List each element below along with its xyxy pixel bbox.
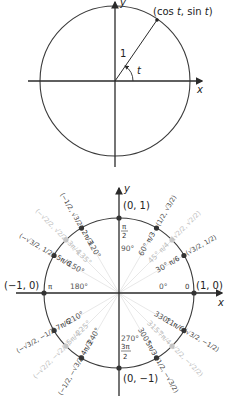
svg-text:5π/4: 5π/4 [65, 330, 82, 347]
svg-text:(−√3/2, −1/2): (−√3/2, −1/2) [15, 326, 58, 356]
svg-text:3π: 3π [121, 343, 130, 351]
svg-text:225°: 225° [74, 318, 93, 337]
svg-text:(1/2, √3/2): (1/2, √3/2) [154, 194, 178, 228]
deg-270: 270° [121, 334, 139, 343]
svg-text:π/3: π/3 [145, 231, 157, 245]
svg-text:30°: 30° [154, 260, 170, 275]
svg-text:(−1/2, −√3/2): (−1/2, −√3/2) [57, 354, 87, 397]
svg-text:210°: 210° [65, 309, 85, 326]
svg-text:315°: 315° [145, 318, 164, 337]
coord-270: (0, −1) [123, 373, 158, 384]
point-180 [41, 290, 46, 295]
svg-text:(−√2/2, √2/2): (−√2/2, √2/2) [34, 207, 71, 244]
rad-270: 3π 2 [121, 343, 131, 361]
svg-text:(1/2, −√3/2): (1/2, −√3/2) [153, 356, 180, 394]
point-label: (cos t, sin t) [153, 6, 213, 17]
svg-text:π/6: π/6 [168, 254, 182, 267]
angle-point-240: 240°4π/3(−1/2, −√3/2) [57, 326, 103, 397]
svg-text:120°: 120° [86, 239, 103, 259]
angle-rays [54, 228, 184, 358]
special-y-axis-label: y [123, 183, 131, 194]
svg-text:60°: 60° [136, 241, 151, 257]
unit-circle-diagram: (cos t, sin t) 1 t x y [0, 0, 234, 170]
rad-180: π [48, 283, 53, 291]
point-0 [191, 290, 196, 295]
angle-point-30: 30°π/6(√3/2, 1/2) [154, 233, 218, 275]
coord-90: (0, 1) [123, 200, 150, 211]
svg-text:π: π [122, 223, 127, 231]
deg-180: 180° [70, 282, 88, 291]
svg-text:(−√2/2, −√2/2): (−√2/2, −√2/2) [31, 340, 72, 381]
svg-text:330°: 330° [152, 309, 172, 326]
svg-text:7π/4: 7π/4 [156, 330, 173, 347]
angle-point-45: 45°π/4(√2/2, √2/2) [146, 209, 202, 265]
svg-text:2π/3: 2π/3 [80, 229, 95, 246]
svg-text:135°: 135° [74, 248, 93, 267]
svg-text:(√3/2, 1/2): (√3/2, 1/2) [184, 233, 218, 257]
angle-arc [125, 66, 133, 81]
special-angle-points: 30°π/6(√3/2, 1/2)45°π/4(√2/2, √2/2)60°π/… [15, 191, 221, 396]
svg-text:(√2/2, √2/2): (√2/2, √2/2) [170, 209, 203, 242]
svg-text:(√3/2, −1/2): (√3/2, −1/2) [182, 327, 220, 354]
svg-text:7π/6: 7π/6 [55, 317, 73, 332]
angle-point-120: 120°2π/3(−1/2, √3/2) [58, 191, 103, 259]
special-unit-circle [44, 218, 194, 368]
deg-0: 0° [159, 282, 168, 291]
angle-point-330: 330°11π/6(√3/2, −1/2) [152, 309, 220, 354]
angle-point-315: 315°7π/4(√2/2, −√2/2) [145, 318, 205, 378]
coord-180: (−1, 0) [4, 280, 39, 291]
svg-text:(√2/2, −√2/2): (√2/2, −√2/2) [168, 342, 205, 379]
angle-point-60: 60°π/3(1/2, √3/2) [136, 194, 178, 258]
svg-text:5π/3: 5π/3 [144, 340, 159, 357]
svg-text:2: 2 [123, 353, 127, 361]
point-270 [116, 365, 121, 370]
svg-text:(−1/2, √3/2): (−1/2, √3/2) [58, 191, 85, 229]
svg-text:240°: 240° [85, 326, 102, 346]
angle-point-210: 210°7π/6(−√3/2, −1/2) [15, 309, 86, 355]
svg-text:5π/6: 5π/6 [55, 254, 73, 269]
svg-text:π/4: π/4 [157, 241, 171, 255]
point-90 [116, 215, 121, 220]
svg-text:300°: 300° [136, 326, 153, 346]
svg-text:11π/6: 11π/6 [164, 316, 186, 333]
deg-90: 90° [121, 244, 135, 253]
svg-text:2: 2 [122, 232, 126, 240]
svg-text:(−√3/2, 1/2): (−√3/2, 1/2) [18, 232, 56, 259]
angle-point-135: 135°3π/4(−√2/2, √2/2) [34, 207, 94, 267]
svg-text:45°: 45° [146, 249, 162, 265]
rad-90: π 2 [121, 223, 128, 240]
special-x-axis-label: x [217, 297, 224, 308]
angle-point-225: 225°5π/4(−√2/2, −√2/2) [31, 318, 93, 380]
angle-point-150: 150°5π/6(−√3/2, 1/2) [18, 232, 87, 276]
y-axis-label: y [119, 0, 127, 8]
angle-point-300: 300°5π/3(1/2, −√3/2) [136, 326, 180, 394]
svg-text:4π/3: 4π/3 [80, 340, 95, 357]
angle-label: t [137, 65, 142, 76]
svg-text:3π/4: 3π/4 [65, 239, 82, 256]
coord-0: (1, 0) [196, 280, 223, 291]
point-marker [155, 18, 159, 22]
radius-label: 1 [120, 48, 126, 59]
rad-0: 0 [185, 283, 189, 291]
svg-text:150°: 150° [66, 259, 86, 276]
x-axis-label: x [196, 84, 203, 95]
